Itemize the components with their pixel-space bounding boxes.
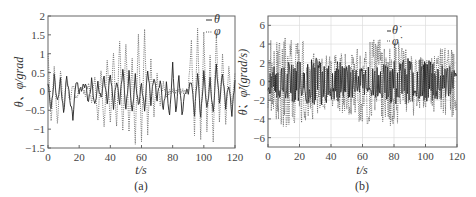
- svg-text:1: 1: [40, 48, 46, 60]
- svg-text:80: 80: [167, 151, 179, 163]
- svg-text:60: 60: [136, 151, 148, 163]
- svg-text:20: 20: [74, 151, 86, 163]
- caption-a: (a): [134, 179, 147, 193]
- svg-text:−2: −2: [253, 94, 265, 106]
- svg-text:0: 0: [265, 150, 271, 162]
- y-axis-label-a: θ、φ/grad: [12, 56, 26, 108]
- series-lines-a: [48, 28, 235, 144]
- svg-text:0.5: 0.5: [31, 67, 45, 79]
- svg-text:40: 40: [105, 151, 117, 163]
- svg-text:2: 2: [260, 57, 266, 69]
- y-axis-a: −1.5−1−0.500.511.52: [25, 10, 51, 154]
- svg-text:2: 2: [40, 10, 46, 22]
- svg-text:1.5: 1.5: [31, 29, 45, 41]
- svg-text:−6: −6: [253, 132, 265, 144]
- caption-b: (b): [355, 179, 369, 193]
- legend-label-phi-dot: φ̇: [392, 34, 403, 48]
- figure: −1.5−1−0.500.511.52 020406080100120 θ φ …: [0, 0, 476, 197]
- svg-text:0: 0: [45, 151, 51, 163]
- chart-panel-a: −1.5−1−0.500.511.52 020406080100120 θ φ …: [12, 10, 244, 193]
- series-line: [48, 62, 235, 120]
- svg-text:−1.5: −1.5: [25, 142, 45, 154]
- svg-text:80: 80: [389, 150, 401, 162]
- legend-label-phi: φ: [214, 24, 221, 38]
- svg-text:−0.5: −0.5: [25, 104, 45, 116]
- svg-text:40: 40: [326, 150, 338, 162]
- svg-text:6: 6: [260, 19, 266, 31]
- x-axis-label-b: t/s: [356, 163, 368, 177]
- svg-text:4: 4: [260, 38, 266, 50]
- svg-text:0: 0: [260, 76, 266, 88]
- svg-text:100: 100: [417, 150, 434, 162]
- chart-panel-b: −6−4−20246 020406080100120 θ̇ φ̇ t/s (b)…: [236, 16, 466, 193]
- svg-text:60: 60: [357, 150, 369, 162]
- svg-text:20: 20: [294, 150, 306, 162]
- svg-text:120: 120: [449, 150, 466, 162]
- y-axis-label-b: θ̇、φ̇/(grad/s): [236, 49, 250, 116]
- svg-text:−4: −4: [253, 113, 265, 125]
- svg-text:−1: −1: [33, 123, 45, 135]
- svg-text:120: 120: [227, 151, 244, 163]
- svg-text:100: 100: [196, 151, 213, 163]
- svg-text:0: 0: [40, 85, 46, 97]
- x-axis-label-a: t/s: [135, 163, 147, 177]
